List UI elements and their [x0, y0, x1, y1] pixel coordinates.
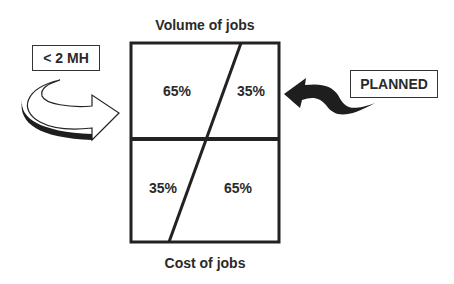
bottom-right-pct: 65% [224, 180, 252, 196]
left-label-box: < 2 MH [32, 45, 100, 71]
curved-arrow-right-icon [22, 80, 119, 140]
diagonal-divider [169, 43, 241, 242]
right-label-box: PLANNED [350, 70, 438, 98]
bottom-left-pct: 35% [149, 180, 177, 196]
top-right-pct: 35% [237, 83, 265, 99]
diagram-canvas [0, 0, 454, 284]
top-title: Volume of jobs [131, 17, 279, 33]
bottom-title: Cost of jobs [131, 255, 279, 271]
top-left-pct: 65% [163, 83, 191, 99]
